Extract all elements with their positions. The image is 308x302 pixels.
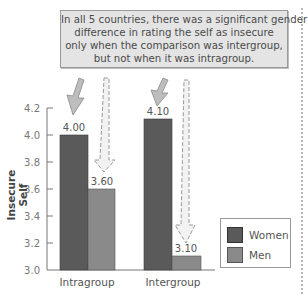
legend-item-men: Men — [227, 247, 271, 263]
bar-intergroup-men — [172, 256, 201, 270]
bar-intragroup-men — [88, 189, 115, 270]
dashed-arrow-icon — [94, 78, 115, 172]
y-tick-label: 4.0 — [24, 130, 40, 141]
value-label: 3.10 — [175, 243, 197, 254]
legend-swatch-women — [227, 227, 243, 243]
y-axis-label: Insecure Self — [5, 160, 29, 230]
legend: Women Men — [220, 218, 291, 268]
x-category-label: Intragroup — [59, 276, 114, 288]
y-tick-label: 3.0 — [24, 265, 40, 276]
legend-item-women: Women — [227, 227, 289, 243]
legend-label: Women — [249, 229, 289, 241]
value-label: 3.60 — [91, 176, 113, 187]
dashed-arrow-icon — [175, 80, 195, 243]
legend-swatch-men — [227, 247, 243, 263]
value-label: 4.10 — [147, 106, 169, 117]
x-category-label: Intergroup — [146, 276, 201, 288]
y-tick-label: 3.2 — [24, 238, 40, 249]
legend-label: Men — [249, 249, 271, 261]
solid-arrow-icon — [67, 78, 84, 115]
y-ticks — [47, 108, 53, 243]
bar-intergroup-women — [144, 119, 172, 270]
solid-arrow-icon — [151, 78, 168, 106]
y-tick-label: 4.2 — [24, 103, 40, 114]
value-label: 4.00 — [63, 122, 85, 133]
bar-intragroup-women — [60, 135, 88, 270]
